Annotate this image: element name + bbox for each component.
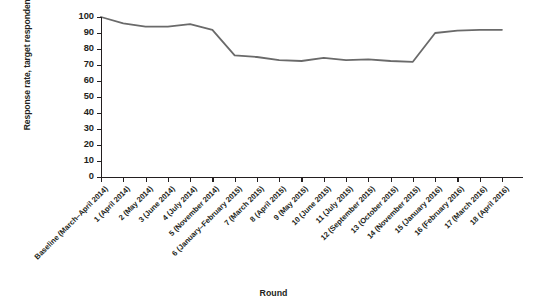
y-tick-label: 40 (84, 108, 94, 117)
x-tick (457, 177, 458, 182)
y-tick (97, 145, 102, 146)
y-tick-label: 80 (84, 44, 94, 53)
y-tick (97, 49, 102, 50)
x-tick (279, 177, 280, 182)
x-tick (257, 177, 258, 182)
y-tick (97, 97, 102, 98)
y-tick (97, 81, 102, 82)
x-tick (502, 177, 503, 182)
y-tick-label: 30 (84, 124, 94, 133)
x-tick (324, 177, 325, 182)
y-tick-label: 70 (84, 60, 94, 69)
y-tick (97, 17, 102, 18)
y-tick (97, 129, 102, 130)
y-tick (97, 161, 102, 162)
y-tick-label: 100 (78, 12, 94, 21)
x-tick (190, 177, 191, 182)
x-tick (301, 177, 302, 182)
y-tick (97, 65, 102, 66)
x-tick (413, 177, 414, 182)
y-tick-label: 50 (84, 92, 94, 101)
x-axis-line (101, 177, 523, 178)
y-tick (97, 113, 102, 114)
chart-figure: Response rate, target respondents, % 010… (0, 0, 547, 308)
plot-area: 0102030405060708090100 Baseline (March–A… (101, 17, 522, 177)
x-tick (391, 177, 392, 182)
y-tick (97, 33, 102, 34)
x-tick (368, 177, 369, 182)
y-axis-title: Response rate, target respondents, % (22, 0, 36, 146)
y-tick-label: 60 (84, 76, 94, 85)
x-tick (101, 177, 102, 182)
x-tick (346, 177, 347, 182)
x-tick (212, 177, 213, 182)
x-tick (123, 177, 124, 182)
x-tick (168, 177, 169, 182)
y-tick-label: 10 (84, 156, 94, 165)
x-tick (235, 177, 236, 182)
y-tick-label: 0 (89, 172, 94, 181)
x-tick (480, 177, 481, 182)
x-tick (435, 177, 436, 182)
response-rate-series (101, 17, 522, 178)
x-axis-title: Round (0, 288, 547, 298)
x-tick (146, 177, 147, 182)
y-tick-label: 20 (84, 140, 94, 149)
y-tick-label: 90 (84, 28, 94, 37)
